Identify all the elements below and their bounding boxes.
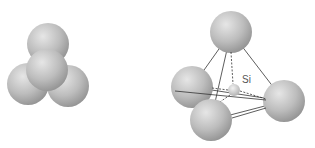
silicate-tetrahedron-diagram: Si bbox=[0, 0, 315, 148]
si-o-bonds bbox=[212, 52, 266, 104]
oxygen-sphere-bottom bbox=[190, 99, 232, 141]
oxygen-sphere-top bbox=[210, 11, 252, 53]
oxygen-sphere-right bbox=[263, 80, 305, 122]
oxygen-sphere-front bbox=[26, 49, 68, 91]
space-filling-model bbox=[7, 23, 89, 107]
silicon-atom bbox=[228, 84, 240, 96]
tetrahedron-model: Si bbox=[171, 11, 305, 141]
si-label: Si bbox=[242, 74, 251, 85]
